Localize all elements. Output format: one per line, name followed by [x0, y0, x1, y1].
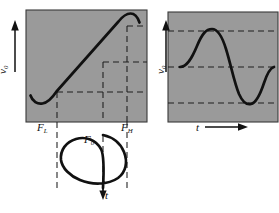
figure-canvas [0, 0, 279, 213]
label-f-center: F0 [84, 134, 94, 147]
label-f-high: FH [121, 122, 133, 135]
label-t-output-axis: t [196, 122, 199, 133]
right-panel-group [162, 12, 278, 131]
label-f-low: FL [37, 122, 48, 135]
label-v0-right-axis: v0 [155, 66, 168, 74]
left-panel-plot-area [26, 10, 147, 122]
label-v0-left-axis: v0 [0, 66, 10, 74]
label-t-input-axis: t [105, 190, 108, 201]
